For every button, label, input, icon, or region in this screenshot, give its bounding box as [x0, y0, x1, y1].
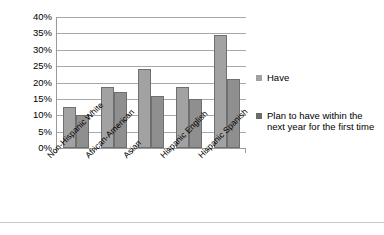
legend-item[interactable]: Plan to have within the next year for th… — [256, 110, 382, 133]
y-axis-tick-labels: 40%35%30%25%20%15%10%5%0% — [18, 10, 52, 155]
y-axis-tick-label: 30% — [33, 45, 52, 55]
bottom-divider — [0, 222, 384, 223]
bar[interactable] — [138, 69, 151, 148]
legend-swatch-icon — [256, 113, 262, 119]
legend-swatch-icon — [256, 75, 262, 81]
legend-item-label: Have — [267, 72, 289, 84]
bars-layer — [57, 17, 246, 148]
plot-area — [56, 17, 246, 149]
y-axis-tick-label: 15% — [33, 94, 52, 104]
y-axis-tick-label: 10% — [33, 110, 52, 120]
y-axis-tick-label: 25% — [33, 61, 52, 71]
legend-item[interactable]: Have — [256, 72, 382, 84]
chart-legend: HavePlan to have within the next year fo… — [256, 72, 382, 159]
y-axis-tick-label: 20% — [33, 78, 52, 88]
x-axis-category-labels: Non-Hispanic WhiteAfrican-AmericanAsianH… — [56, 153, 256, 223]
bar[interactable] — [151, 96, 164, 148]
y-axis-tick-label: 5% — [38, 127, 52, 137]
y-axis-tick-label: 40% — [33, 12, 52, 22]
y-axis-tick-label: 35% — [33, 28, 52, 38]
bar-group — [133, 17, 171, 148]
bar-chart: 40%35%30%25%20%15%10%5%0% Non-Hispanic W… — [0, 0, 384, 235]
legend-item-label: Plan to have within the next year for th… — [267, 110, 382, 133]
plot-wrapper: 40%35%30%25%20%15%10%5%0% Non-Hispanic W… — [0, 0, 250, 160]
